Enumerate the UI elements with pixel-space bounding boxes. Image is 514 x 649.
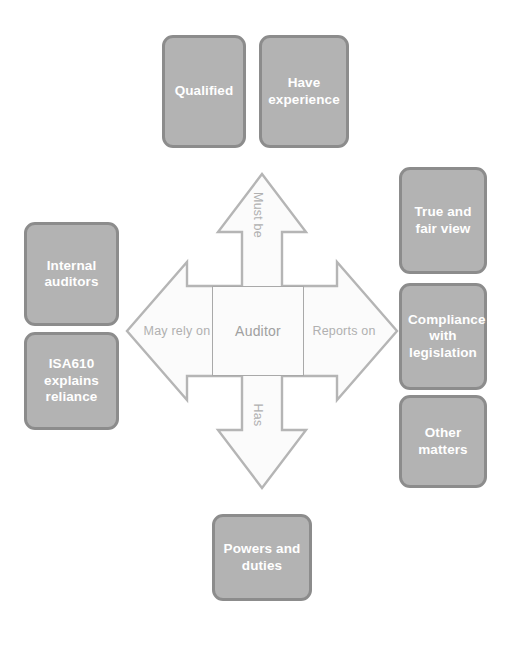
- node-true-and-fair-view: True and fair view: [399, 167, 487, 274]
- node-powers-and-duties-label: Powers and duties: [221, 541, 303, 574]
- diagram-canvas: Auditor Must be Reports on Has May rely …: [0, 0, 514, 649]
- node-internal-auditors: Internal auditors: [24, 222, 119, 326]
- arrow-label-has: Has: [248, 391, 268, 439]
- node-have-experience: Have experience: [259, 35, 349, 148]
- node-powers-and-duties: Powers and duties: [212, 514, 312, 601]
- node-other-matters: Other matters: [399, 395, 487, 488]
- node-internal-auditors-label: Internal auditors: [33, 258, 110, 291]
- arrow-label-must-be: Must be: [248, 179, 268, 251]
- node-isa610-explains-reliance: ISA610 explains reliance: [24, 332, 119, 430]
- node-have-experience-label: Have experience: [268, 75, 340, 108]
- node-isa610-explains-reliance-label: ISA610 explains reliance: [33, 356, 110, 405]
- node-compliance-with-legislation-label: Compliance with legislation: [408, 312, 478, 361]
- center-node-label: Auditor: [235, 323, 281, 339]
- node-qualified: Qualified: [162, 35, 246, 148]
- node-true-and-fair-view-label: True and fair view: [408, 204, 478, 237]
- node-qualified-label: Qualified: [171, 83, 237, 99]
- arrow-label-may-rely-on: May rely on: [139, 324, 215, 338]
- arrow-label-reports-on: Reports on: [305, 324, 383, 338]
- center-node-auditor: Auditor: [212, 286, 304, 376]
- node-other-matters-label: Other matters: [408, 425, 478, 458]
- node-compliance-with-legislation: Compliance with legislation: [399, 283, 487, 390]
